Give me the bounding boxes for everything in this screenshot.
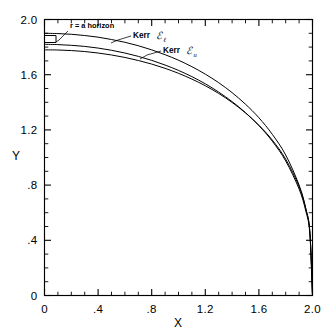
x-tick-label: 1.2 — [197, 303, 214, 315]
curve-r-a-horizon — [45, 50, 313, 296]
annotation-symbol-kerr-e-upper: ℰ — [186, 45, 193, 56]
annotation-label-kerr-e-upper: Kerr — [163, 46, 181, 55]
annotation-leader-r-a-horizon — [56, 31, 68, 42]
annotation-subscript-kerr-e-lower: ℓ — [162, 36, 166, 43]
y-tick-label: .4 — [27, 234, 37, 246]
axis-ticks — [45, 20, 313, 296]
plot-frame — [45, 20, 313, 296]
y-tick-label: .8 — [27, 179, 37, 191]
x-tick-label: 2.0 — [304, 303, 321, 315]
figure-root: r = a horizonKerrℰℓKerrℰu 0.4.81.21.62.0… — [0, 0, 332, 333]
data-curves — [45, 33, 313, 295]
annotation-label-r-a-horizon: r = a horizon — [70, 21, 115, 30]
y-tick-label: 1.2 — [21, 124, 38, 136]
x-tick-label: 1.6 — [250, 303, 267, 315]
x-axis-title: X — [174, 316, 182, 330]
y-tick-label: 2.0 — [21, 14, 38, 26]
annotation-symbol-kerr-e-lower: ℰ — [156, 30, 163, 41]
x-tick-label: .8 — [147, 303, 157, 315]
chart-canvas: r = a horizonKerrℰℓKerrℰu 0.4.81.21.62.0… — [0, 0, 332, 333]
curve-kerr-e-l — [45, 33, 313, 295]
annotation-label-kerr-e-lower: Kerr — [133, 31, 151, 40]
x-tick-label: 0 — [41, 303, 48, 315]
y-tick-label: 1.6 — [21, 69, 38, 81]
y-axis-title: Y — [12, 149, 20, 163]
annotation-subscript-kerr-e-upper: u — [193, 51, 197, 58]
horizon-marker — [45, 36, 56, 43]
x-tick-label: .4 — [93, 303, 103, 315]
y-tick-label: 0 — [31, 290, 38, 302]
axis-tick-labels: 0.4.81.21.62.00.4.81.21.62.0 — [21, 14, 321, 315]
curve-kerr-e-u — [45, 44, 313, 295]
